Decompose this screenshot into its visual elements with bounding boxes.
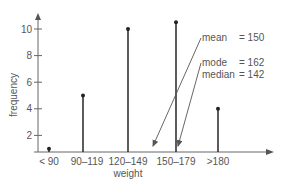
mean-arrow [153, 38, 201, 146]
stem-2 [126, 27, 130, 152]
y-tick-label: 2 [26, 130, 32, 141]
y-axis-label: frequency [8, 73, 19, 117]
stem-1 [81, 94, 85, 153]
data-point [47, 147, 51, 151]
data-point [81, 94, 85, 98]
y-tick-label: 6 [26, 77, 32, 88]
x-tick-label: 120–149 [109, 156, 148, 167]
mode-label: mode [202, 57, 227, 68]
stem-4 [216, 107, 220, 152]
x-tick-label: 150–179 [157, 156, 196, 167]
stem-3 [174, 20, 178, 152]
mode-value: = 162 [239, 57, 265, 68]
data-point [216, 107, 220, 111]
y-ticks: 246810 [21, 24, 42, 141]
x-axis-arrow-icon [266, 149, 274, 155]
y-tick-label: 4 [26, 103, 32, 114]
annotations: mean = 150 mode = 162 median = 142 [153, 32, 265, 146]
median-label: median [202, 69, 235, 80]
x-tick-label: 90–119 [71, 156, 104, 167]
x-axis [34, 149, 274, 155]
x-tick-label: >180 [207, 156, 230, 167]
data-point [174, 20, 178, 24]
mode-arrow [178, 63, 201, 146]
median-value: = 142 [239, 69, 265, 80]
stem-0 [47, 147, 51, 152]
x-axis-label: weight [113, 168, 143, 179]
y-axis-arrow-icon [35, 13, 41, 20]
y-tick-label: 8 [26, 50, 32, 61]
mean-value: = 150 [239, 32, 265, 43]
data-point [126, 27, 130, 31]
stems [47, 20, 220, 152]
x-tick-labels: < 9090–119120–149150–179>180 [39, 156, 230, 167]
y-tick-label: 10 [21, 24, 33, 35]
frequency-stem-chart: 246810 < 9090–119120–149150–179>180 weig… [0, 0, 287, 189]
mean-label: mean [202, 32, 227, 43]
x-tick-label: < 90 [39, 156, 59, 167]
